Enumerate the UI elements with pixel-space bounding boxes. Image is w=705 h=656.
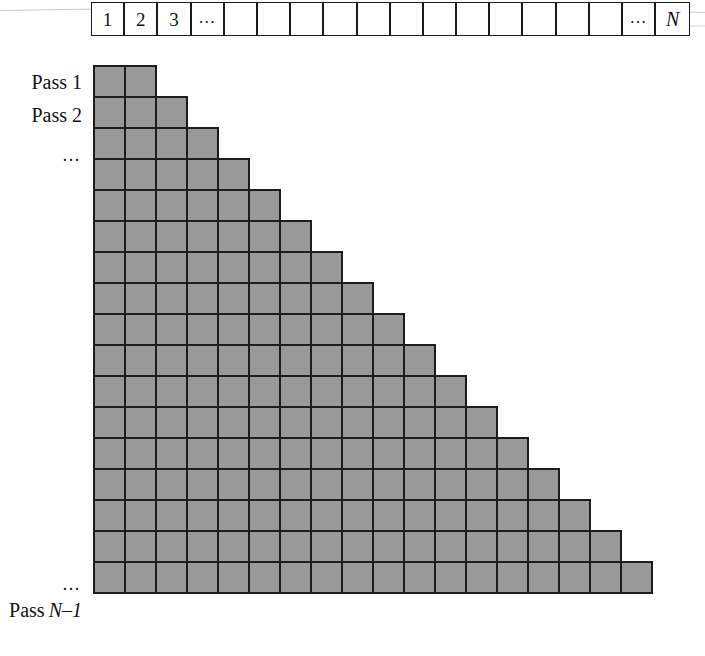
staircase-cell bbox=[93, 313, 126, 346]
staircase-row-pass-14 bbox=[93, 468, 651, 501]
staircase-cell bbox=[186, 282, 219, 315]
staircase-cell bbox=[186, 406, 219, 439]
pass-staircase bbox=[93, 65, 651, 592]
staircase-cell bbox=[93, 127, 126, 160]
staircase-cell bbox=[310, 468, 343, 501]
staircase-cell bbox=[93, 158, 126, 191]
staircase-cell bbox=[589, 530, 622, 563]
array-cell-2: 2 bbox=[125, 3, 158, 35]
staircase-cell bbox=[217, 189, 250, 222]
staircase-cell bbox=[279, 375, 312, 408]
staircase-cell bbox=[155, 468, 188, 501]
staircase-cell bbox=[465, 530, 498, 563]
pass-label-row-17: Pass N–1 bbox=[9, 593, 82, 626]
staircase-cell bbox=[93, 65, 126, 98]
staircase-cell bbox=[124, 313, 157, 346]
staircase-cell bbox=[93, 499, 126, 532]
staircase-cell bbox=[434, 561, 467, 594]
staircase-cell bbox=[93, 96, 126, 129]
staircase-cell bbox=[186, 344, 219, 377]
staircase-cell bbox=[186, 189, 219, 222]
staircase-cell bbox=[279, 561, 312, 594]
staircase-cell bbox=[217, 282, 250, 315]
staircase-cell bbox=[217, 344, 250, 377]
staircase-cell bbox=[124, 220, 157, 253]
array-cell-10 bbox=[391, 3, 424, 35]
staircase-cell bbox=[310, 344, 343, 377]
staircase-cell bbox=[155, 96, 188, 129]
staircase-row-pass-7 bbox=[93, 251, 651, 284]
staircase-cell bbox=[186, 158, 219, 191]
staircase-cell bbox=[434, 530, 467, 563]
pass-label-text: … bbox=[62, 575, 82, 593]
staircase-cell bbox=[248, 561, 281, 594]
staircase-cell bbox=[434, 437, 467, 470]
staircase-cell bbox=[93, 251, 126, 284]
staircase-cell bbox=[217, 406, 250, 439]
staircase-cell bbox=[434, 406, 467, 439]
staircase-cell bbox=[279, 344, 312, 377]
staircase-cell bbox=[186, 561, 219, 594]
staircase-cell bbox=[93, 468, 126, 501]
staircase-row-pass-17 bbox=[93, 561, 651, 594]
scan-artifact-line bbox=[0, 8, 100, 11]
staircase-cell bbox=[372, 375, 405, 408]
staircase-cell bbox=[186, 530, 219, 563]
staircase-cell bbox=[217, 220, 250, 253]
staircase-cell bbox=[496, 561, 529, 594]
staircase-cell bbox=[310, 406, 343, 439]
array-cell-17: … bbox=[623, 3, 656, 35]
array-cell-14 bbox=[523, 3, 556, 35]
array-cell-15 bbox=[557, 3, 590, 35]
staircase-cell bbox=[279, 220, 312, 253]
staircase-cell bbox=[620, 561, 653, 594]
staircase-cell bbox=[93, 189, 126, 222]
staircase-cell bbox=[279, 468, 312, 501]
staircase-cell bbox=[341, 375, 374, 408]
staircase-cell bbox=[372, 437, 405, 470]
staircase-row-pass-2 bbox=[93, 96, 651, 129]
array-cell-16 bbox=[590, 3, 623, 35]
staircase-cell bbox=[186, 499, 219, 532]
staircase-cell bbox=[279, 406, 312, 439]
staircase-cell bbox=[310, 251, 343, 284]
pass-label-text: Pass 1 bbox=[31, 72, 82, 92]
staircase-cell bbox=[217, 530, 250, 563]
staircase-cell bbox=[496, 499, 529, 532]
staircase-cell bbox=[372, 468, 405, 501]
staircase-cell bbox=[341, 499, 374, 532]
staircase-cell bbox=[279, 499, 312, 532]
staircase-cell bbox=[465, 437, 498, 470]
staircase-cell bbox=[496, 437, 529, 470]
staircase-cell bbox=[217, 251, 250, 284]
staircase-cell bbox=[186, 127, 219, 160]
staircase-cell bbox=[155, 561, 188, 594]
staircase-cell bbox=[434, 375, 467, 408]
staircase-cell bbox=[155, 375, 188, 408]
array-cell-5 bbox=[225, 3, 258, 35]
pass-label-row-3: … bbox=[62, 131, 82, 168]
staircase-cell bbox=[558, 561, 591, 594]
staircase-cell bbox=[186, 468, 219, 501]
staircase-cell bbox=[372, 561, 405, 594]
staircase-cell bbox=[155, 530, 188, 563]
staircase-cell bbox=[465, 406, 498, 439]
staircase-cell bbox=[341, 313, 374, 346]
staircase-cell bbox=[124, 530, 157, 563]
staircase-cell bbox=[310, 437, 343, 470]
staircase-cell bbox=[217, 561, 250, 594]
staircase-cell bbox=[124, 65, 157, 98]
staircase-cell bbox=[279, 282, 312, 315]
staircase-cell bbox=[341, 468, 374, 501]
staircase-cell bbox=[155, 251, 188, 284]
staircase-row-pass-8 bbox=[93, 282, 651, 315]
staircase-cell bbox=[248, 406, 281, 439]
staircase-cell bbox=[155, 313, 188, 346]
staircase-cell bbox=[310, 375, 343, 408]
staircase-cell bbox=[372, 344, 405, 377]
staircase-cell bbox=[248, 282, 281, 315]
staircase-cell bbox=[248, 499, 281, 532]
array-cell-1: 1 bbox=[92, 3, 125, 35]
staircase-cell bbox=[434, 499, 467, 532]
staircase-row-pass-3 bbox=[93, 127, 651, 160]
